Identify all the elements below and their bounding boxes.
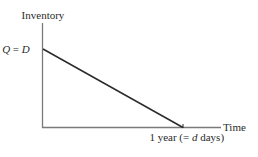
x-end-prefix: 1 year (= xyxy=(149,131,192,144)
d-symbol: D xyxy=(21,43,30,55)
y-axis-label: Inventory xyxy=(22,9,65,21)
y-intercept-label: Q = D xyxy=(0,43,38,55)
q-symbol: Q xyxy=(2,43,10,55)
inventory-diagram: Inventory Time Q = D 1 year (= d days) xyxy=(0,0,258,157)
x-end-label: 1 year (= d days) xyxy=(136,131,233,144)
equals-sign: = xyxy=(10,43,22,55)
x-end-suffix: days) xyxy=(197,131,224,144)
inventory-depletion-line xyxy=(43,49,183,128)
